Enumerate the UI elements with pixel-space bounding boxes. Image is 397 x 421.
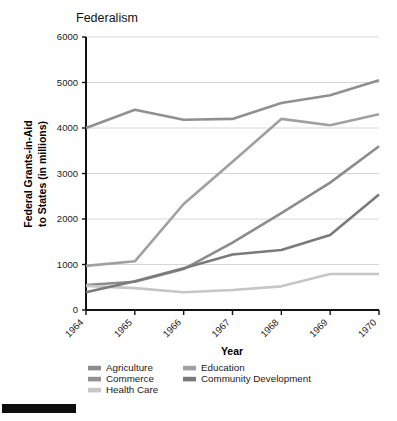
chart-background (0, 0, 397, 421)
legend-label: Health Care (106, 384, 159, 395)
chart-figure: Federalism 0100020003000400050006000 196… (0, 0, 397, 421)
legend-swatch (183, 377, 196, 382)
y-tick-label: 5000 (57, 77, 78, 88)
y-tick-label: 1000 (57, 259, 78, 270)
y-tick-label: 2000 (57, 213, 78, 224)
legend-label: Education (201, 362, 245, 373)
legend-label: Agriculture (106, 362, 153, 373)
y-tick-label: 3000 (57, 168, 78, 179)
federalism-line-chart: Federalism 0100020003000400050006000 196… (0, 0, 397, 421)
decorative-black-bar (2, 404, 76, 413)
x-axis-title: Year (221, 345, 243, 357)
y-tick-label: 6000 (57, 31, 78, 42)
legend-swatch (88, 377, 101, 382)
y-tick-label: 0 (73, 304, 78, 315)
legend-label: Commerce (106, 373, 154, 384)
y-axis-title-line2: to States (in millions) (36, 121, 48, 227)
legend-label: Community Development (201, 373, 311, 384)
chart-title: Federalism (76, 11, 138, 25)
y-axis-title-line1: Federal Grants-in-Aid (22, 120, 34, 227)
legend-swatch (88, 366, 101, 371)
legend-swatch (88, 388, 101, 393)
y-tick-label: 4000 (57, 122, 78, 133)
legend-swatch (183, 366, 196, 371)
